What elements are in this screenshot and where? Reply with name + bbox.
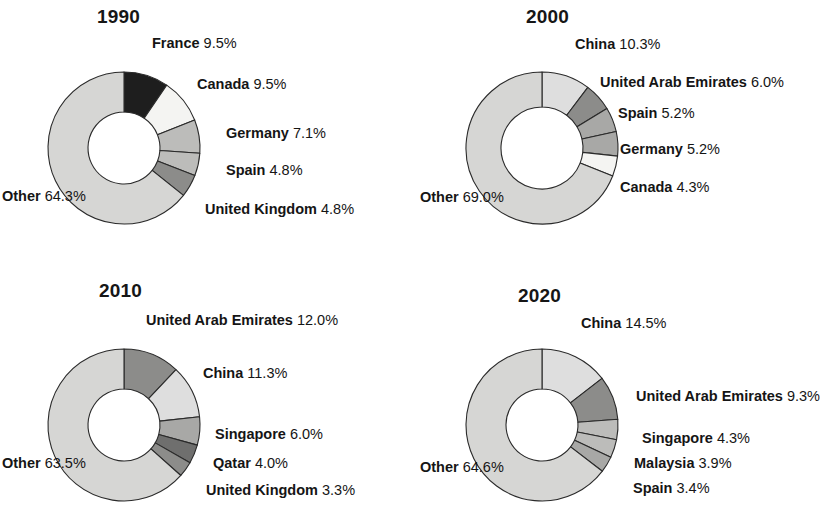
slice-label-percent: 64.3% [45, 188, 86, 204]
slice-label: China 14.5% [581, 316, 666, 331]
slice-label: United Kingdom 4.8% [205, 202, 354, 217]
slice-label-name: Other [2, 188, 41, 204]
slice-label-name: United Arab Emirates [636, 388, 783, 404]
slice-label-percent: 4.0% [255, 455, 288, 471]
slice-label-name: Germany [226, 125, 289, 141]
slice-label-percent: 6.0% [290, 426, 323, 442]
slice-label-name: United Arab Emirates [600, 74, 747, 90]
slice-label: Singapore 4.3% [642, 431, 750, 446]
slice-label: France 9.5% [152, 36, 237, 51]
slice-label-percent: 3.9% [699, 455, 732, 471]
chart-panel-2000: 2000 China 10.3%United Arab Emirates 6.0… [418, 0, 836, 263]
slice-label-percent: 3.4% [677, 480, 710, 496]
slice-label-percent: 69.0% [463, 189, 504, 205]
chart-panel-2020: 2020 China 14.5%United Arab Emirates 9.3… [418, 263, 836, 526]
slice-label-name: United Kingdom [206, 482, 318, 498]
slice-label: Canada 9.5% [197, 77, 286, 92]
slice-label-percent: 14.5% [625, 315, 666, 331]
slice-label-percent: 4.8% [321, 201, 354, 217]
slice-label: United Arab Emirates 6.0% [600, 75, 784, 90]
slice-label-percent: 12.0% [297, 312, 338, 328]
slice-label-percent: 4.8% [270, 162, 303, 178]
slice-label: Germany 7.1% [226, 126, 326, 141]
pie-chart-grid: 1990 France 9.5%Canada 9.5%Germany 7.1%S… [0, 0, 836, 526]
slice-label-percent: 64.6% [463, 459, 504, 475]
slice-label: Other 63.5% [2, 456, 86, 471]
slice-label-name: China [203, 365, 243, 381]
slice-label-percent: 63.5% [45, 455, 86, 471]
slice-label: Germany 5.2% [620, 142, 720, 157]
slice-label: Malaysia 3.9% [634, 456, 732, 471]
slice-label: Spain 5.2% [618, 106, 695, 121]
slice-label-name: Canada [620, 179, 672, 195]
slice-label-percent: 5.2% [662, 105, 695, 121]
slice-label-name: Other [420, 189, 459, 205]
slice-label: Spain 4.8% [226, 163, 303, 178]
chart-panel-2010: 2010 United Arab Emirates 12.0%China 11.… [0, 263, 418, 526]
slice-label-percent: 11.3% [247, 365, 287, 381]
slice-label: Other 69.0% [420, 190, 504, 205]
slice-label-name: Spain [633, 480, 672, 496]
slice-label: United Arab Emirates 12.0% [146, 313, 338, 328]
slice-label-name: France [152, 35, 200, 51]
slice-label-name: Canada [197, 76, 249, 92]
slice-label-percent: 4.3% [676, 179, 709, 195]
slice-label-percent: 9.3% [787, 388, 820, 404]
slice-label-name: Singapore [642, 430, 713, 446]
slice-label: Canada 4.3% [620, 180, 709, 195]
slice-label-name: Other [420, 459, 459, 475]
slice-label-name: Germany [620, 141, 683, 157]
slice-label-name: United Kingdom [205, 201, 317, 217]
chart-panel-1990: 1990 France 9.5%Canada 9.5%Germany 7.1%S… [0, 0, 418, 263]
slice-label: United Arab Emirates 9.3% [636, 389, 820, 404]
slice-label-percent: 3.3% [322, 482, 355, 498]
slice-label-name: Spain [226, 162, 265, 178]
slice-label-percent: 9.5% [253, 76, 286, 92]
slice-label: China 10.3% [575, 37, 660, 52]
slice-label-percent: 9.5% [204, 35, 237, 51]
slice-label: Other 64.3% [2, 189, 86, 204]
slice-label-percent: 4.3% [717, 430, 750, 446]
slice-label-name: China [575, 36, 615, 52]
slice-label-name: Qatar [213, 455, 251, 471]
slice-label: Spain 3.4% [633, 481, 710, 496]
slice-label-name: China [581, 315, 621, 331]
slice-label-name: United Arab Emirates [146, 312, 293, 328]
slice-label: China 11.3% [203, 366, 287, 381]
slice-label-percent: 6.0% [751, 74, 784, 90]
slice-label: Singapore 6.0% [215, 427, 323, 442]
slice-label-percent: 5.2% [687, 141, 720, 157]
slice-label-percent: 10.3% [619, 36, 660, 52]
slice-label: United Kingdom 3.3% [206, 483, 355, 498]
slice-label: Other 64.6% [420, 460, 504, 475]
slice-label: Qatar 4.0% [213, 456, 288, 471]
slice-label-percent: 7.1% [293, 125, 326, 141]
slice-label-name: Singapore [215, 426, 286, 442]
slice-label-name: Spain [618, 105, 657, 121]
slice-label-name: Other [2, 455, 41, 471]
slice-label-name: Malaysia [634, 455, 694, 471]
